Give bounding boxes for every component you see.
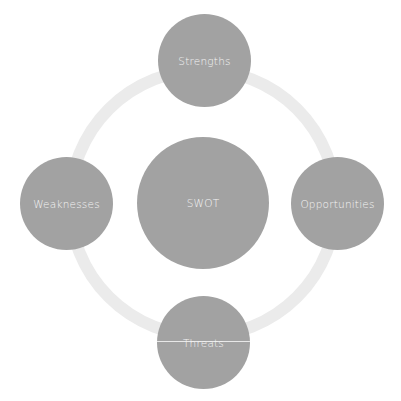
node-weaknesses: Weaknesses [20,157,113,250]
node-strengths: Strengths [158,14,251,107]
node-threats: Threats [157,296,250,389]
node-label-opportunities: Opportunities [300,198,374,210]
center-node-swot: SWOT [137,137,269,269]
center-label: SWOT [187,197,220,209]
node-label-weaknesses: Weaknesses [33,198,100,210]
node-opportunities: Opportunities [291,157,384,250]
node-label-threats: Threats [183,337,224,349]
node-label-strengths: Strengths [178,55,230,67]
